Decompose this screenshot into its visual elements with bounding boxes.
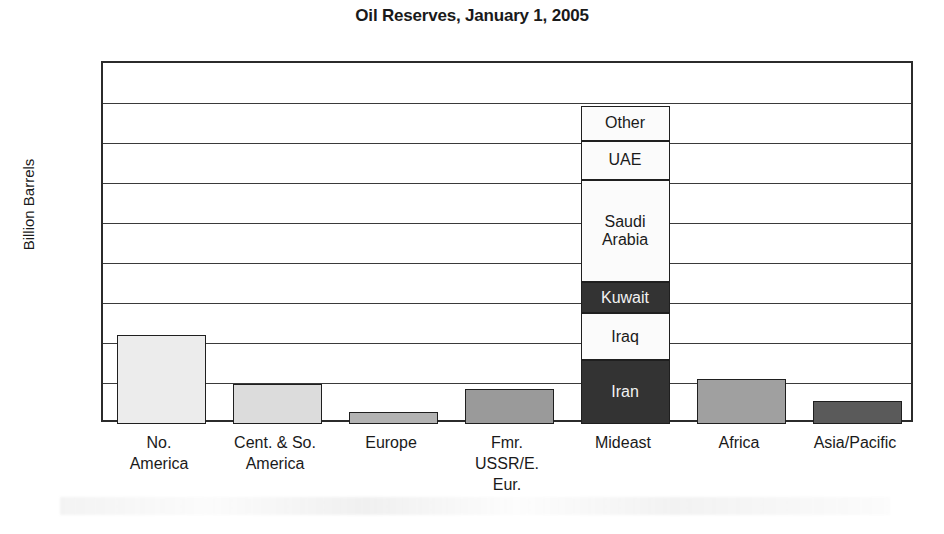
x-axis-tick-label: Mideast bbox=[565, 432, 681, 453]
bar bbox=[813, 401, 902, 424]
gridline bbox=[103, 303, 911, 304]
x-axis-tick-label: Cent. & So. America bbox=[217, 432, 333, 474]
plot-area: IranIraqKuwaitSaudi ArabiaUAEOther bbox=[101, 61, 913, 422]
gridline bbox=[103, 263, 911, 264]
stack-segment: Iraq bbox=[581, 313, 670, 360]
gridline bbox=[103, 103, 911, 104]
bar bbox=[117, 335, 206, 424]
bar bbox=[465, 389, 554, 424]
gridline bbox=[103, 383, 911, 384]
stack-segment: Kuwait bbox=[581, 282, 670, 313]
x-axis-tick-label: Asia/Pacific bbox=[797, 432, 913, 453]
oil-reserves-bar-chart: Oil Reserves, January 1, 2005 Billion Ba… bbox=[0, 0, 944, 534]
bar bbox=[233, 384, 322, 424]
x-axis-tick-label: No. America bbox=[101, 432, 217, 474]
x-axis-tick-label: Europe bbox=[333, 432, 449, 453]
stack-segment: Iran bbox=[581, 360, 670, 424]
gridline bbox=[103, 143, 911, 144]
gridline bbox=[103, 223, 911, 224]
stack-segment: Saudi Arabia bbox=[581, 180, 670, 282]
gridline bbox=[103, 183, 911, 184]
stack-segment: Other bbox=[581, 106, 670, 141]
y-axis-title: Billion Barrels bbox=[20, 115, 37, 295]
stack-segment: UAE bbox=[581, 141, 670, 180]
x-axis-tick-label: Africa bbox=[681, 432, 797, 453]
bar bbox=[697, 379, 786, 424]
gridline bbox=[103, 343, 911, 344]
bar bbox=[349, 412, 438, 424]
x-axis-tick-label: Fmr. USSR/E. Eur. bbox=[449, 432, 565, 495]
scan-artifact bbox=[60, 497, 890, 515]
chart-title: Oil Reserves, January 1, 2005 bbox=[0, 6, 944, 26]
